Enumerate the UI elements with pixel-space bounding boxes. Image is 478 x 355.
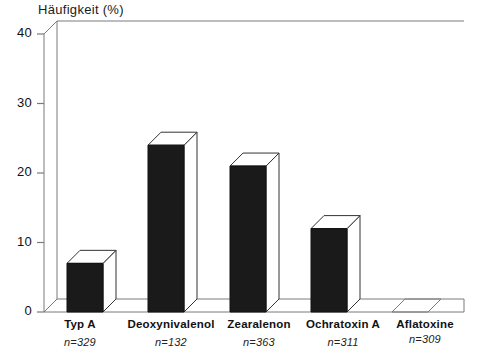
- bar-2: [148, 132, 197, 312]
- frame-depth-topleft: [44, 21, 57, 34]
- bar-5: [392, 299, 441, 312]
- bar-footprint: [392, 299, 441, 312]
- bar-front-face: [67, 263, 103, 312]
- bar-side-face: [184, 132, 197, 312]
- bar-front-face: [230, 166, 266, 312]
- frame-depth-bottomleft: [44, 299, 57, 312]
- bar-4: [311, 216, 360, 312]
- bar-side-face: [347, 216, 360, 312]
- bar-front-face: [148, 145, 184, 312]
- bar-front-face: [311, 229, 347, 312]
- bar-chart: Häufigkeit (%) 40 30 20 10 0 Typ A Deoxy…: [0, 0, 478, 355]
- y-axis-ticks: [37, 34, 44, 312]
- bar-side-face: [266, 153, 279, 312]
- bar-1: [67, 250, 116, 312]
- bars-layer: [67, 132, 441, 312]
- plot-area: [0, 0, 478, 355]
- bar-3: [230, 153, 279, 312]
